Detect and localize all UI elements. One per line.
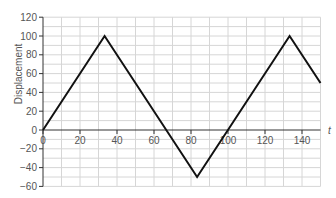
x-tick-label: 20 bbox=[74, 135, 86, 146]
x-tick-label: 120 bbox=[257, 135, 274, 146]
x-axis-label: t bbox=[328, 125, 332, 136]
displacement-line bbox=[43, 36, 321, 177]
y-axis-label: Displacement bbox=[13, 43, 24, 104]
x-tick-label: 60 bbox=[148, 135, 160, 146]
y-tick-label: 100 bbox=[20, 31, 37, 42]
y-tick-label: 60 bbox=[26, 68, 38, 79]
grid bbox=[43, 17, 321, 186]
x-tick-label: 140 bbox=[294, 135, 311, 146]
y-tick-label: −40 bbox=[20, 162, 37, 173]
displacement-chart: −60−40−200204060801001200204060801001201… bbox=[0, 0, 336, 198]
y-tick-label: 20 bbox=[26, 106, 38, 117]
y-tick-label: −60 bbox=[20, 181, 37, 192]
y-tick-label: 80 bbox=[26, 49, 38, 60]
y-tick-label: −20 bbox=[20, 143, 37, 154]
y-tick-label: 0 bbox=[31, 125, 37, 136]
x-tick-label: 80 bbox=[185, 135, 197, 146]
y-tick-label: 40 bbox=[26, 87, 38, 98]
x-tick-label: 40 bbox=[111, 135, 123, 146]
y-tick-label: 120 bbox=[20, 12, 37, 23]
x-tick-label: 0 bbox=[40, 135, 46, 146]
